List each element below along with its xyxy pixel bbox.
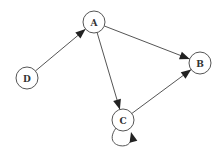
edge-line [104, 26, 189, 59]
directed-graph: ABCD [0, 0, 221, 153]
edge-a-to-c [97, 33, 121, 110]
arrowhead-icon [181, 70, 191, 79]
node-label: B [196, 59, 204, 69]
nodes-layer: ABCD [16, 11, 211, 131]
arrowhead-icon [113, 99, 121, 110]
node-label: A [90, 18, 99, 28]
arrowhead-icon [179, 52, 190, 59]
edges-layer [35, 26, 191, 146]
edge-c-to-b [132, 70, 191, 114]
node-a: A [83, 11, 105, 33]
edge-d-to-a [35, 29, 85, 71]
edge-line [132, 70, 191, 114]
node-b: B [189, 52, 211, 74]
node-label: C [119, 116, 126, 126]
arrowhead-icon [130, 132, 138, 143]
edge-line [97, 33, 120, 110]
node-d: D [16, 67, 38, 89]
node-label: D [23, 74, 31, 84]
arrowhead-icon [75, 29, 85, 38]
node-c: C [112, 109, 134, 131]
edge-a-to-b [104, 26, 189, 59]
